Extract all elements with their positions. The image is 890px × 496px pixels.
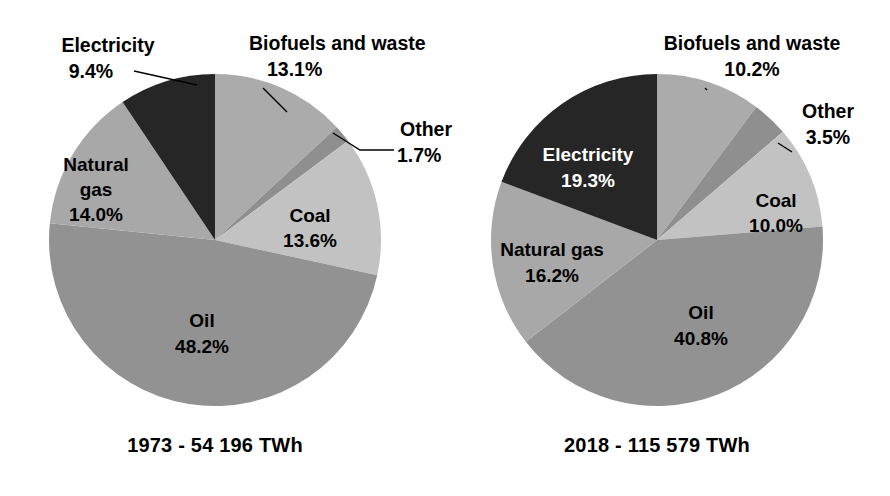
- chart-panel-1973: [0, 0, 445, 496]
- chart-panel-2018: [445, 0, 890, 496]
- pie-chart-figure: Electricity 9.4% Biofuels and waste 13.1…: [0, 0, 890, 496]
